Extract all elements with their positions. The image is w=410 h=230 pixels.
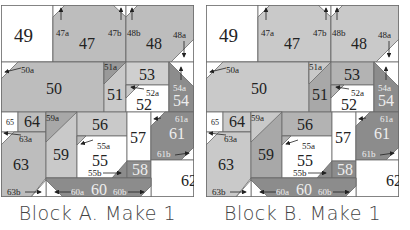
label-55b: 55b <box>88 168 102 178</box>
label-47a: 47a <box>56 28 69 38</box>
label-60: 60 <box>296 181 312 197</box>
label-47b: 47b <box>108 28 122 38</box>
label-55a: 55a <box>97 141 110 151</box>
label-61: 61 <box>374 125 390 142</box>
label-48b: 48b <box>127 28 141 38</box>
label-60b: 60b <box>113 187 127 197</box>
label-61b: 61b <box>157 149 171 159</box>
label-61a: 61a <box>380 114 393 124</box>
label-63b: 63b <box>7 187 21 197</box>
label-59: 59 <box>258 146 274 163</box>
label-53: 53 <box>344 66 360 83</box>
label-55: 55 <box>92 152 108 169</box>
label-57: 57 <box>335 129 351 146</box>
label-60a: 60a <box>71 187 84 197</box>
label-47b: 47b <box>313 28 327 38</box>
label-51a: 51a <box>309 62 322 72</box>
label-63: 63 <box>218 156 234 173</box>
label-59a: 59a <box>46 113 59 123</box>
label-65: 65 <box>211 118 219 127</box>
label-61a: 61a <box>175 114 188 124</box>
label-52: 52 <box>136 96 152 113</box>
block-a-diagram: 49 47a 47 47b 48b 48 48a 50a 50 51a 51 5… <box>1 5 194 197</box>
label-53: 53 <box>139 66 155 83</box>
label-47a: 47a <box>261 28 274 38</box>
label-54: 54 <box>378 92 394 109</box>
block-b-caption: Block B. Make 1 <box>206 202 399 224</box>
label-56: 56 <box>297 116 313 133</box>
label-47: 47 <box>284 35 300 52</box>
label-50a: 50a <box>226 65 239 75</box>
label-49: 49 <box>219 25 238 46</box>
block-a-pattern: 49 47a 47 47b 48b 48 48a 50a 50 51a 51 5… <box>1 5 194 197</box>
label-65: 65 <box>6 118 14 127</box>
label-48: 48 <box>146 35 162 52</box>
block-b-pattern: 49 47a 47 47b 48b 48 48a 50a 50 51a 51 5… <box>206 5 399 197</box>
label-63a: 63a <box>19 134 32 144</box>
label-55: 55 <box>297 152 313 169</box>
label-51: 51 <box>312 86 328 103</box>
label-59: 59 <box>53 146 69 163</box>
label-47: 47 <box>79 35 95 52</box>
label-49: 49 <box>14 25 33 46</box>
block-a-caption: Block A. Make 1 <box>1 202 194 224</box>
label-63b: 63b <box>212 187 226 197</box>
label-62: 62 <box>181 172 194 189</box>
label-61: 61 <box>169 125 185 142</box>
label-62: 62 <box>386 172 399 189</box>
label-55b: 55b <box>293 168 307 178</box>
label-48: 48 <box>351 35 367 52</box>
label-48a: 48a <box>173 30 186 40</box>
label-58: 58 <box>337 161 353 178</box>
label-51a: 51a <box>104 62 117 72</box>
label-60b: 60b <box>318 187 332 197</box>
label-64: 64 <box>24 113 40 130</box>
label-55a: 55a <box>302 141 315 151</box>
label-60: 60 <box>91 181 107 197</box>
label-51: 51 <box>107 86 123 103</box>
label-63a: 63a <box>224 134 237 144</box>
block-b-diagram: 49 47a 47 47b 48b 48 48a 50a 50 51a 51 5… <box>206 5 399 197</box>
label-50a: 50a <box>21 65 34 75</box>
label-64: 64 <box>229 113 245 130</box>
label-48a: 48a <box>378 30 391 40</box>
label-54: 54 <box>173 92 189 109</box>
label-57: 57 <box>130 129 146 146</box>
label-61b: 61b <box>362 149 376 159</box>
label-59a: 59a <box>251 113 264 123</box>
label-56: 56 <box>92 116 108 133</box>
label-60a: 60a <box>276 187 289 197</box>
label-63: 63 <box>13 156 29 173</box>
label-50: 50 <box>251 80 267 97</box>
label-52: 52 <box>341 96 357 113</box>
label-48b: 48b <box>332 28 346 38</box>
label-50: 50 <box>46 80 62 97</box>
label-58: 58 <box>132 161 148 178</box>
